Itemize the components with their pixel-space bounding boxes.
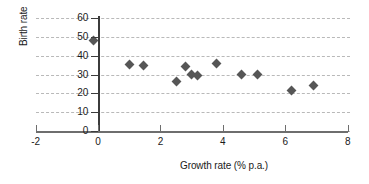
x-axis-tick (36, 125, 37, 132)
x-axis-tick-label: 4 (208, 136, 238, 147)
x-axis-tick (160, 125, 161, 132)
y-axis-tick-label: 10 (77, 107, 88, 117)
y-axis-tick (91, 75, 99, 76)
data-point (212, 58, 222, 68)
data-point (124, 59, 134, 69)
scatter-chart: 0102030405060 -202468 Birth rate Growth … (0, 0, 369, 184)
data-point (171, 76, 181, 86)
y-axis-tick-label: 50 (77, 32, 88, 42)
x-axis-tick-label: -2 (21, 136, 51, 147)
x-axis-title: Growth rate (% p.a.) (98, 160, 350, 171)
x-axis-tick-label: 6 (270, 136, 300, 147)
y-axis-tick-label: 20 (77, 88, 88, 98)
plot-area (98, 18, 350, 131)
x-axis-tick (285, 125, 286, 132)
x-axis-tick-label: 2 (145, 136, 175, 147)
data-point (252, 70, 262, 80)
y-axis-tick-label: 0 (83, 126, 88, 136)
x-axis-tick (98, 125, 99, 132)
y-axis-title: Birth rate (18, 6, 29, 46)
y-axis-tick (91, 37, 99, 38)
y-axis-tick-label: 40 (77, 51, 88, 61)
data-point (308, 81, 318, 91)
data-point (193, 70, 203, 80)
data-point (138, 60, 148, 70)
y-axis-tick (91, 18, 99, 19)
y-axis-tick-label: 30 (77, 70, 88, 80)
x-axis-tick (223, 125, 224, 132)
y-axis-tick (91, 112, 99, 113)
data-point (237, 70, 247, 80)
x-axis-tick-label: 8 (333, 136, 363, 147)
y-axis-tick (91, 93, 99, 94)
y-axis-tick-label: 60 (77, 13, 88, 23)
x-axis-tick-label: 0 (83, 136, 113, 147)
y-axis-tick (91, 56, 99, 57)
x-axis-tick (348, 125, 349, 132)
